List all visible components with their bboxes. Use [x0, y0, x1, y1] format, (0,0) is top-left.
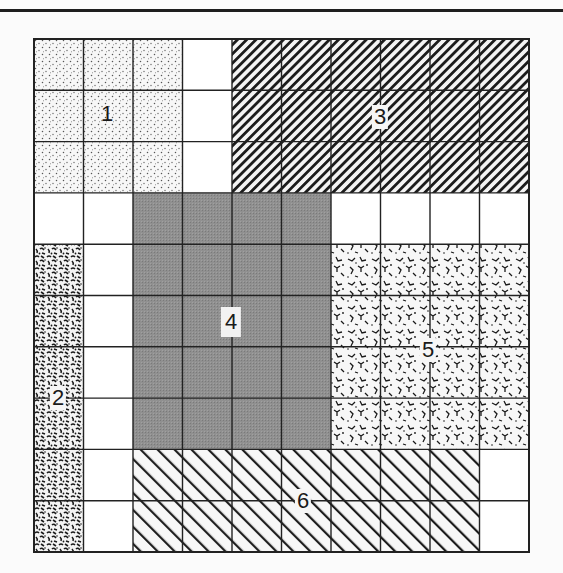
region-6-label: 6 [295, 489, 311, 513]
region-1-label: 1 [98, 101, 116, 127]
region-grid-diagram: 1 3 4 2 5 6 [34, 39, 529, 552]
region-3-label: 3 [372, 105, 388, 129]
region-2-label: 2 [50, 386, 66, 410]
top-rule [0, 9, 563, 12]
region-4-label: 4 [221, 307, 241, 337]
region-5-label: 5 [420, 338, 436, 362]
